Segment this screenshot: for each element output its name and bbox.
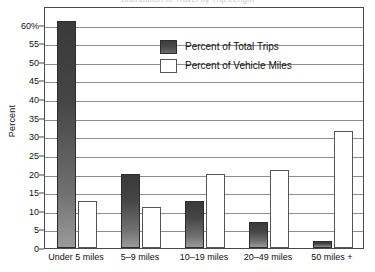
y-tick-label: 30 xyxy=(29,132,39,142)
y-tick-label: 0 xyxy=(34,244,39,254)
y-tick-label: 35 xyxy=(29,114,39,124)
chart-title: Distribution of Travel by Trip Length xyxy=(0,0,375,4)
bar-miles xyxy=(142,207,161,248)
x-tick-label: 5–9 miles xyxy=(121,252,160,262)
legend-swatch-total-trips xyxy=(160,40,177,54)
y-tick-label: 15 xyxy=(29,188,39,198)
legend-item-vehicle-miles: Percent of Vehicle Miles xyxy=(160,56,335,75)
bar-trips xyxy=(313,241,332,248)
x-tick-label: Under 5 miles xyxy=(48,252,104,262)
bar-trips xyxy=(121,174,140,248)
bar-chart: Distribution of Travel by Trip Length Pe… xyxy=(0,0,375,272)
legend-label-vehicle-miles: Percent of Vehicle Miles xyxy=(185,60,292,71)
legend-item-total-trips: Percent of Total Trips xyxy=(160,37,335,56)
legend-label-total-trips: Percent of Total Trips xyxy=(185,41,279,52)
bar-group xyxy=(45,8,109,248)
bar-miles xyxy=(206,174,225,248)
x-tick-label: 50 miles + xyxy=(311,252,352,262)
bar-miles xyxy=(270,170,289,248)
x-tick-label: 20–49 miles xyxy=(244,252,293,262)
y-tick-label: 25 xyxy=(29,151,39,161)
y-tick-label: 55 xyxy=(29,39,39,49)
x-axis-labels: Under 5 miles5–9 miles10–19 miles20–49 m… xyxy=(44,252,364,272)
bar-trips xyxy=(57,21,76,248)
y-axis-ticks: 60%5550454035302520151050 xyxy=(0,7,44,249)
y-tick-label: 5 xyxy=(34,225,39,235)
y-tick-label: 40 xyxy=(29,95,39,105)
chart-title-cropped: Distribution of Travel by Trip Length xyxy=(0,0,375,7)
bar-trips xyxy=(185,201,204,248)
chart-legend: Percent of Total Trips Percent of Vehicl… xyxy=(160,37,335,75)
y-tick-label: 10 xyxy=(29,207,39,217)
bar-miles xyxy=(334,131,353,248)
y-tick-label: 50 xyxy=(29,58,39,68)
y-tick-label: 20 xyxy=(29,170,39,180)
y-tick-label: 45 xyxy=(29,76,39,86)
y-tick-label: 60% xyxy=(21,21,39,31)
legend-swatch-vehicle-miles xyxy=(160,59,177,73)
bar-miles xyxy=(78,201,97,248)
bar-trips xyxy=(249,222,268,248)
x-tick-label: 10–19 miles xyxy=(180,252,229,262)
